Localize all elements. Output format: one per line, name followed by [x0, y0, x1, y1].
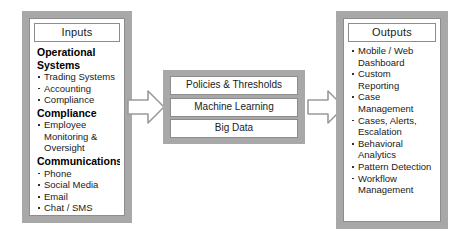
inputs-group-list-compliance: Employee Monitoring & Oversight: [37, 119, 118, 154]
inputs-panel-inner: Inputs Operational Systems Trading Syste…: [29, 18, 125, 216]
list-item: Social Media: [37, 179, 118, 191]
inputs-group-title-communications: Communications: [37, 155, 118, 168]
outputs-body: Mobile / Web Dashboard Custom Reporting …: [348, 42, 436, 221]
list-item: Phone: [37, 168, 118, 180]
outputs-header: Outputs: [348, 23, 436, 42]
list-item: Workflow Management: [351, 173, 434, 196]
list-item: Custom Reporting: [351, 68, 434, 91]
outputs-panel-inner: Outputs Mobile / Web Dashboard Custom Re…: [343, 18, 441, 222]
outputs-list: Mobile / Web Dashboard Custom Reporting …: [351, 45, 434, 196]
outputs-panel: Outputs Mobile / Web Dashboard Custom Re…: [336, 11, 448, 229]
arrow-right-icon-inputs-to-engine: [127, 87, 165, 127]
list-item: Mobile / Web Dashboard: [351, 45, 434, 68]
inputs-group-title-operational-systems: Operational Systems: [37, 46, 118, 71]
list-item: Trading Systems: [37, 71, 118, 83]
inputs-group-list-operational-systems: Trading Systems Accounting Compliance: [37, 71, 118, 106]
analytics-engine-panel: Policies & Thresholds Machine Learning B…: [163, 70, 305, 144]
engine-box-machine-learning: Machine Learning: [170, 98, 298, 117]
inputs-panel: Inputs Operational Systems Trading Syste…: [22, 11, 132, 223]
inputs-header: Inputs: [34, 23, 120, 42]
list-item: Pattern Detection: [351, 161, 434, 173]
list-item: Email: [37, 191, 118, 203]
engine-box-big-data: Big Data: [170, 119, 298, 138]
list-item: Case Management: [351, 91, 434, 114]
inputs-group-list-communications: Phone Social Media Email Chat / SMS: [37, 168, 118, 214]
inputs-body: Operational Systems Trading Systems Acco…: [34, 42, 120, 215]
list-item: Employee Monitoring & Oversight: [37, 119, 118, 154]
list-item: Compliance: [37, 94, 118, 106]
inputs-group-title-compliance: Compliance: [37, 107, 118, 120]
list-item: Cases, Alerts, Escalation: [351, 115, 434, 138]
engine-box-policies-thresholds: Policies & Thresholds: [170, 76, 298, 95]
list-item: Accounting: [37, 83, 118, 95]
list-item: Behavioral Analytics: [351, 138, 434, 161]
list-item: Chat / SMS: [37, 202, 118, 214]
